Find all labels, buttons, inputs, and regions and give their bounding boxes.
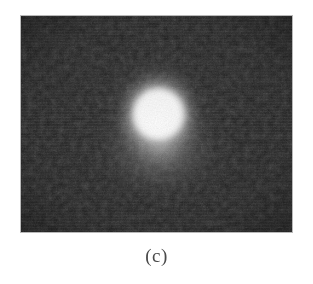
photograph-image	[21, 16, 292, 232]
figure-caption: (c)	[0, 243, 313, 269]
figure-panel: (c)	[0, 0, 313, 284]
photo-vignette	[21, 16, 292, 232]
photograph-frame	[20, 15, 293, 233]
